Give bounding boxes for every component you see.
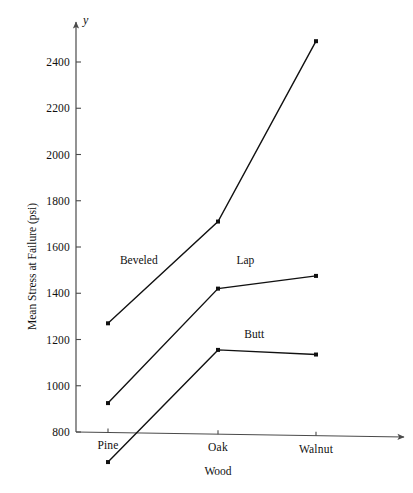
series-label-lap: Lap	[236, 254, 254, 266]
y-axis-tick-label: 2200	[28, 102, 70, 114]
x-axis-tick-label: Walnut	[299, 443, 333, 455]
series-data-point-marker	[106, 321, 110, 325]
series-line	[108, 41, 316, 323]
series-data-point-marker	[314, 274, 318, 278]
y-axis-tick-label: 2000	[28, 149, 70, 161]
y-axis-title: Mean Stress at Failure (psi)	[26, 203, 38, 330]
y-axis-tick-label: 800	[28, 426, 70, 438]
x-axis-title: Wood	[204, 465, 231, 477]
series-data-point-marker	[314, 353, 318, 357]
y-variable-symbol-label: y	[83, 13, 88, 28]
series-data-point-marker	[216, 287, 220, 291]
y-axis-tick-label: 2400	[28, 56, 70, 68]
x-axis-tick-label: Oak	[208, 441, 228, 453]
series-label-butt: Butt	[244, 328, 264, 340]
series-data-point-marker	[106, 460, 110, 464]
series-markers-group	[106, 39, 318, 464]
y-axis-tick-label: 1200	[28, 334, 70, 346]
stress-at-failure-line-chart: 80010001200140016001800200022002400 Pine…	[0, 0, 413, 493]
x-axis-tick-label: Pine	[97, 439, 118, 451]
x-axis-line	[76, 432, 404, 437]
series-label-beveled: Beveled	[120, 254, 158, 266]
series-lines-group	[108, 41, 316, 462]
series-data-point-marker	[106, 401, 110, 405]
y-axis-tick-label: 1000	[28, 380, 70, 392]
series-data-point-marker	[314, 39, 318, 43]
y-axis-tick-marks	[76, 62, 81, 432]
series-data-point-marker	[216, 348, 220, 352]
series-data-point-marker	[216, 220, 220, 224]
